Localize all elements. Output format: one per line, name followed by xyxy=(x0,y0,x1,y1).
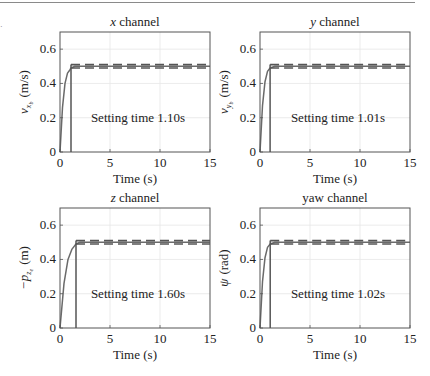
subplot-title: x channel xyxy=(109,14,160,29)
y-tick-label: 0 xyxy=(50,144,57,159)
y-tick-label: 0.4 xyxy=(240,75,257,90)
settling-time-annotation: Setting time 1.01s xyxy=(291,110,385,125)
y-tick-label: 0.6 xyxy=(240,217,257,232)
x-tick-label: 10 xyxy=(154,155,167,170)
x-tick-label: 15 xyxy=(404,155,417,170)
subplot-title: z channel xyxy=(110,190,160,205)
x-tick-label: 5 xyxy=(107,331,114,346)
y-tick-label: 0.2 xyxy=(40,286,56,301)
axes-frame xyxy=(60,32,210,152)
subplot-y-channel: 05101500.20.40.6y channelTime (s)vyb(m/s… xyxy=(216,14,417,186)
x-tick-label: 15 xyxy=(204,155,217,170)
x-tick-label: 0 xyxy=(257,155,264,170)
y-tick-label: 0.6 xyxy=(240,41,257,56)
subplot-z-channel: 05101500.20.40.6z channelTime (s)−pze(m)… xyxy=(16,190,217,362)
y-axis-label: vyb(m/s) xyxy=(216,70,234,114)
y-tick-label: 0.2 xyxy=(240,286,256,301)
y-axis-label: ψ(rad) xyxy=(216,249,231,286)
x-axis-label: Time (s) xyxy=(113,171,157,186)
x-tick-label: 5 xyxy=(307,331,314,346)
y-tick-label: 0.6 xyxy=(40,217,57,232)
x-tick-label: 5 xyxy=(307,155,314,170)
x-axis-label: Time (s) xyxy=(313,171,357,186)
figure-canvas: 05101500.20.40.6x channelTime (s)vxb(m/s… xyxy=(0,0,430,376)
settling-time-annotation: Setting time 1.02s xyxy=(291,286,385,301)
x-tick-label: 0 xyxy=(257,331,264,346)
settling-time-annotation: Setting time 1.60s xyxy=(91,286,185,301)
x-axis-label: Time (s) xyxy=(313,347,357,362)
y-tick-label: 0.4 xyxy=(240,251,257,266)
subplot-x-channel: 05101500.20.40.6x channelTime (s)vxb(m/s… xyxy=(16,14,217,186)
x-tick-label: 15 xyxy=(404,331,417,346)
x-tick-label: 10 xyxy=(354,155,367,170)
x-tick-label: 0 xyxy=(57,331,64,346)
axes-frame xyxy=(260,32,410,152)
y-tick-label: 0.6 xyxy=(40,41,57,56)
y-tick-label: 0 xyxy=(250,320,257,335)
axes-frame xyxy=(60,208,210,328)
subplot-title: y channel xyxy=(308,14,360,29)
y-tick-label: 0.4 xyxy=(40,75,57,90)
x-tick-label: 10 xyxy=(354,331,367,346)
y-axis-label: −pze(m) xyxy=(16,246,34,290)
y-tick-label: 0.2 xyxy=(240,110,256,125)
y-tick-label: 0.4 xyxy=(40,251,57,266)
y-axis-label: vxb(m/s) xyxy=(16,70,34,114)
x-tick-label: 0 xyxy=(57,155,64,170)
y-tick-label: 0 xyxy=(50,320,57,335)
y-tick-label: 0.2 xyxy=(40,110,56,125)
subplot-yaw-channel: 05101500.20.40.6yaw channelTime (s)ψ(rad… xyxy=(216,190,417,362)
x-tick-label: 10 xyxy=(154,331,167,346)
x-tick-label: 15 xyxy=(204,331,217,346)
axes-frame xyxy=(260,208,410,328)
x-tick-label: 5 xyxy=(107,155,114,170)
x-axis-label: Time (s) xyxy=(113,347,157,362)
settling-time-annotation: Setting time 1.10s xyxy=(91,110,185,125)
subplot-title: yaw channel xyxy=(302,190,368,205)
y-tick-label: 0 xyxy=(250,144,257,159)
